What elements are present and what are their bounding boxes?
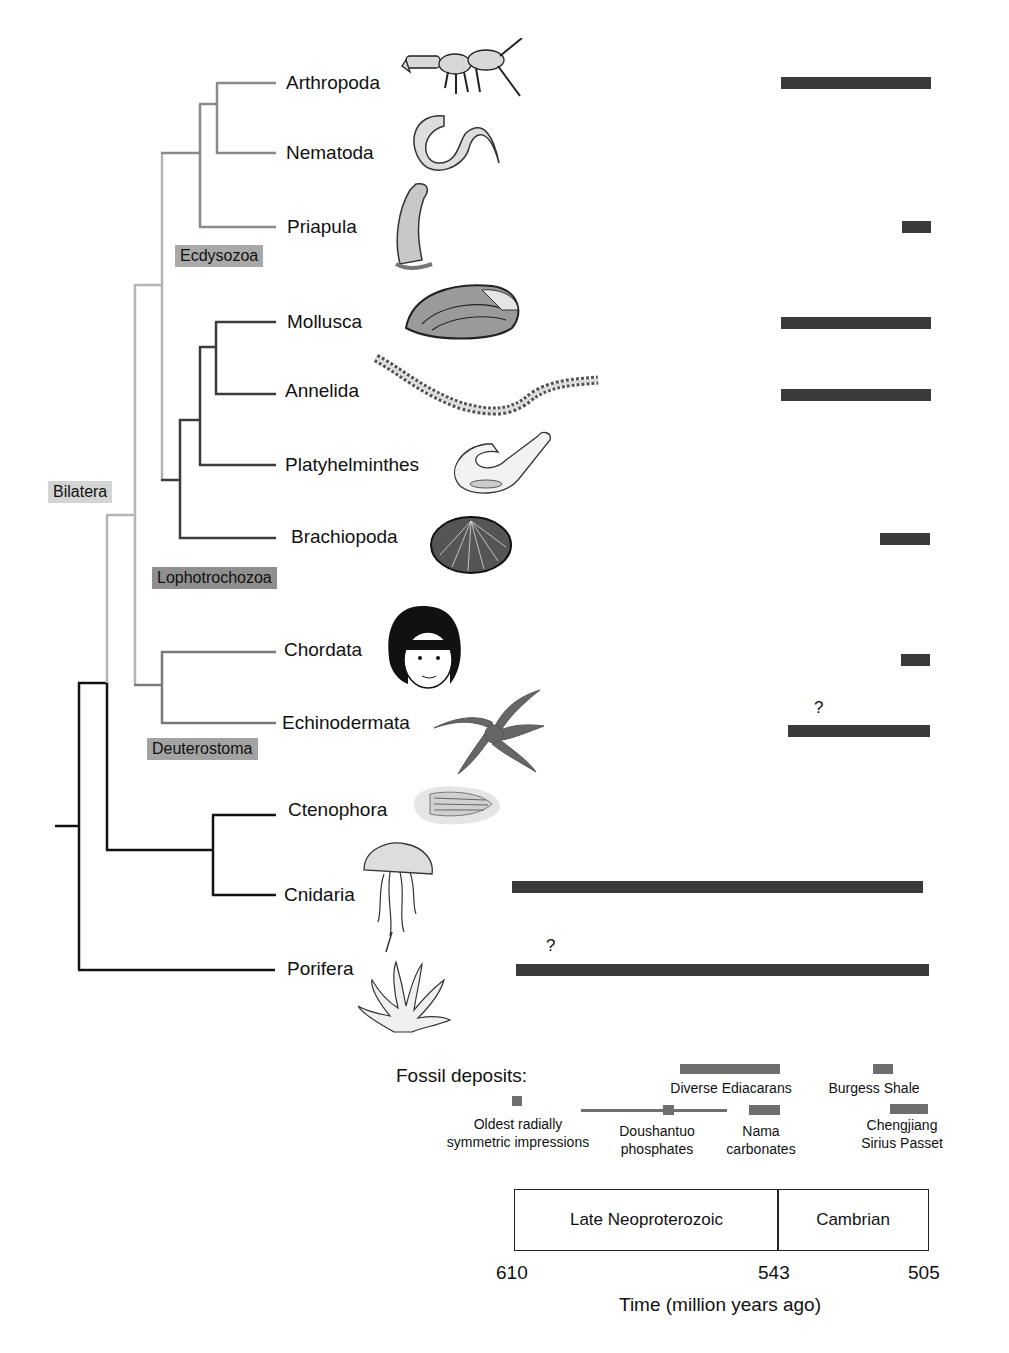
range-bar-chordata xyxy=(901,654,930,666)
deposit-label-doushantuo: Doushantuo phosphates xyxy=(602,1122,712,1158)
deposit-label-burgess: Burgess Shale xyxy=(816,1079,932,1097)
eon-late-neoproterozoic: Late Neoproterozoic xyxy=(516,1210,777,1230)
taxon-label-arthropoda: Arthropoda xyxy=(286,72,380,94)
taxon-label-cnidaria: Cnidaria xyxy=(284,884,355,906)
clade-label-lophotrochozoa: Lophotrochozoa xyxy=(152,567,277,589)
uncertain-marker-echinodermata: ? xyxy=(814,698,823,718)
deposit-bar-chengjiang xyxy=(890,1104,928,1114)
range-bar-arthropoda xyxy=(781,77,931,89)
taxon-label-platyhelminthes: Platyhelminthes xyxy=(285,454,419,476)
range-bar-mollusca xyxy=(781,317,931,329)
priapulid-icon xyxy=(388,180,436,275)
clade-label-bilatera: Bilatera xyxy=(48,481,112,503)
taxon-label-nematoda: Nematoda xyxy=(286,142,374,164)
tick-610: 610 xyxy=(496,1262,528,1284)
taxon-label-porifera: Porifera xyxy=(287,958,354,980)
range-bar-brachiopoda xyxy=(880,533,930,545)
starfish-icon xyxy=(432,688,547,776)
tick-505: 505 xyxy=(908,1262,940,1284)
human-face-icon xyxy=(384,602,462,694)
deposit-bar-oldest-radial xyxy=(512,1096,522,1106)
roundworm-icon xyxy=(404,108,504,180)
taxon-label-brachiopoda: Brachiopoda xyxy=(291,526,398,548)
uncertain-marker-porifera: ? xyxy=(546,936,555,956)
deposit-label-chengjiang: Chengjiang Sirius Passet xyxy=(850,1116,954,1152)
taxon-label-annelida: Annelida xyxy=(285,380,359,402)
range-bar-porifera xyxy=(516,964,929,976)
crayfish-icon xyxy=(400,38,525,100)
tick-543: 543 xyxy=(758,1262,790,1284)
taxon-label-priapula: Priapula xyxy=(287,216,357,238)
deposit-bar-doushantuo xyxy=(663,1105,674,1115)
clam-icon xyxy=(402,280,524,346)
clade-label-deuterostoma: Deuterostoma xyxy=(147,738,258,760)
comb-jelly-icon xyxy=(410,782,506,828)
deposit-label-ediacarans: Diverse Ediacarans xyxy=(656,1079,806,1097)
lamp-shell-icon xyxy=(428,515,514,575)
time-axis-label: Time (million years ago) xyxy=(619,1294,821,1316)
flatworm-icon xyxy=(446,430,556,500)
range-bar-cnidaria xyxy=(512,881,923,893)
deposit-bar-nama xyxy=(749,1105,780,1115)
taxon-label-mollusca: Mollusca xyxy=(287,311,362,333)
deposit-label-nama: Nama carbonates xyxy=(716,1122,806,1158)
deposit-label-oldest-radial: Oldest radially symmetric impressions xyxy=(428,1115,608,1151)
deposit-line-doushantuo xyxy=(581,1109,727,1112)
deposit-bar-ediacarans xyxy=(680,1064,780,1074)
sponge-icon xyxy=(354,956,454,1036)
clade-label-ecdysozoa: Ecdysozoa xyxy=(175,245,263,267)
range-bar-priapula xyxy=(902,221,931,233)
eon-cambrian: Cambrian xyxy=(779,1210,927,1230)
range-bar-echinodermata xyxy=(788,725,930,737)
range-bar-annelida xyxy=(781,389,931,401)
taxon-label-chordata: Chordata xyxy=(284,639,362,661)
segmented-worm-icon xyxy=(372,352,600,420)
jellyfish-icon xyxy=(360,840,436,955)
deposit-bar-burgess xyxy=(873,1064,893,1074)
fossil-deposits-title: Fossil deposits: xyxy=(396,1065,527,1087)
taxon-label-echinodermata: Echinodermata xyxy=(282,712,410,734)
taxon-label-ctenophora: Ctenophora xyxy=(288,799,387,821)
